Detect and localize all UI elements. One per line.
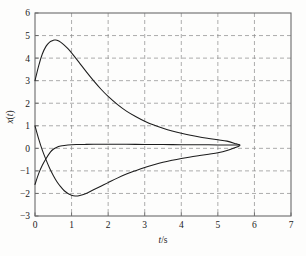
x-tick-label: 7 bbox=[289, 220, 294, 230]
y-tick-label: 4 bbox=[25, 54, 30, 64]
y-tick-label: 1 bbox=[25, 121, 30, 131]
chart-figure: 01234567 −3−2−10123456 t/s x(t) bbox=[0, 0, 306, 256]
y-tick-label: 2 bbox=[25, 99, 30, 109]
y-tick-label: 6 bbox=[25, 8, 30, 18]
x-tick-label: 0 bbox=[33, 220, 38, 230]
y-axis-label: x(t) bbox=[5, 110, 16, 124]
x-axis-label: t/s bbox=[159, 235, 168, 245]
y-tick-label: −2 bbox=[20, 189, 30, 199]
y-tick-label: 0 bbox=[25, 144, 30, 154]
x-tick-label: 5 bbox=[215, 220, 220, 230]
x-tick-label: 2 bbox=[106, 220, 111, 230]
y-tick-label: −3 bbox=[20, 211, 30, 221]
line-chart-svg: 01234567 −3−2−10123456 t/s x(t) bbox=[0, 0, 306, 256]
y-tick-label: −1 bbox=[20, 166, 30, 176]
x-tick-label: 3 bbox=[142, 220, 147, 230]
x-tick-label: 1 bbox=[69, 220, 74, 230]
x-tick-label: 4 bbox=[179, 220, 184, 230]
y-tick-label: 3 bbox=[25, 76, 30, 86]
x-tick-label: 6 bbox=[252, 220, 257, 230]
figure-background bbox=[0, 0, 306, 256]
y-tick-label: 5 bbox=[25, 31, 30, 41]
